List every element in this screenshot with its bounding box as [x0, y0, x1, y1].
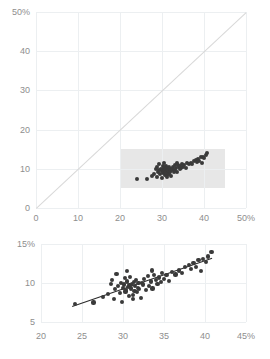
x-axis-tick-label: 0: [16, 214, 56, 223]
data-point: [204, 260, 208, 264]
detail-chart-panel: 202530354045%51015%: [0, 230, 270, 359]
y-gridline: [41, 244, 246, 245]
data-point: [125, 269, 129, 273]
data-point: [170, 167, 174, 171]
data-point: [140, 281, 144, 285]
x-gridline: [78, 12, 79, 208]
data-point: [209, 250, 213, 254]
x-gridline: [246, 12, 247, 208]
data-point: [114, 272, 118, 276]
data-point: [206, 254, 210, 258]
detail-plot-area: [41, 244, 246, 322]
data-point: [149, 279, 153, 283]
y-gridline: [36, 51, 246, 52]
x-axis-tick-label: 30: [142, 214, 182, 223]
data-point: [157, 275, 161, 279]
data-point: [128, 275, 132, 279]
x-gridline: [36, 12, 37, 208]
overview-chart-panel: 01020304050%01020304050%: [0, 0, 270, 230]
data-point: [194, 265, 198, 269]
y-gridline: [36, 208, 246, 209]
data-point: [162, 277, 166, 281]
y-axis-tick-label: 20: [0, 126, 30, 135]
data-point: [160, 176, 164, 180]
x-axis-tick-label: 25: [62, 332, 102, 341]
data-point: [173, 272, 177, 276]
x-axis-tick-label: 40: [185, 332, 225, 341]
data-point: [162, 161, 166, 165]
x-gridline: [246, 244, 247, 322]
y-axis-tick-label: 15%: [0, 240, 35, 249]
x-axis-tick-label: 50%: [226, 214, 266, 223]
x-gridline: [120, 12, 121, 208]
y-gridline: [36, 130, 246, 131]
y-axis-tick-label: 40: [0, 47, 30, 56]
data-point: [145, 177, 149, 181]
y-gridline: [41, 322, 246, 323]
x-axis-tick-label: 30: [103, 332, 143, 341]
x-axis-tick-label: 20: [21, 332, 61, 341]
x-axis-tick-label: 40: [184, 214, 224, 223]
data-point: [199, 269, 203, 273]
x-axis-tick-label: 10: [58, 214, 98, 223]
x-axis-tick-label: 35: [144, 332, 184, 341]
data-point: [150, 286, 154, 290]
data-point: [146, 274, 150, 278]
y-axis-tick-label: 10: [0, 279, 35, 288]
data-point: [106, 292, 110, 296]
y-gridline: [36, 169, 246, 170]
data-point: [175, 161, 179, 165]
data-point: [109, 282, 113, 286]
data-point: [139, 296, 143, 300]
x-gridline: [204, 12, 205, 208]
y-axis-tick-label: 10: [0, 165, 30, 174]
data-point: [164, 273, 168, 277]
data-point: [144, 288, 148, 292]
data-point: [137, 287, 141, 291]
data-point: [101, 295, 105, 299]
data-point: [73, 302, 77, 306]
data-point: [184, 166, 188, 170]
x-axis-tick-label: 20: [100, 214, 140, 223]
data-point: [150, 268, 154, 272]
y-axis-tick-label: 50%: [0, 8, 30, 17]
data-point: [118, 291, 122, 295]
data-point: [167, 279, 171, 283]
y-axis-tick-label: 0: [0, 204, 30, 213]
overview-plot-area: [36, 12, 246, 208]
y-axis-tick-label: 5: [0, 318, 35, 327]
y-gridline: [36, 12, 246, 13]
x-axis-tick-label: 45%: [226, 332, 266, 341]
data-point: [110, 278, 114, 282]
data-point: [112, 297, 116, 301]
data-point: [200, 161, 204, 165]
data-point: [91, 300, 95, 304]
data-point: [131, 293, 135, 297]
y-axis-tick-label: 30: [0, 86, 30, 95]
data-point: [189, 267, 193, 271]
data-point: [180, 271, 184, 275]
y-gridline: [36, 90, 246, 91]
data-point: [131, 297, 135, 301]
